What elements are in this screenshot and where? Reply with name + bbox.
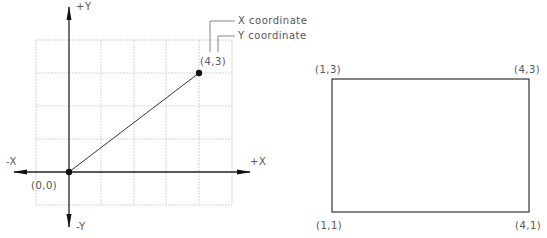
x-coordinate-leader xyxy=(210,21,235,52)
y-coordinate-callout: Y coordinate xyxy=(237,30,307,41)
corner-top-left-label: (1,3) xyxy=(315,64,341,75)
neg-y-label: -Y xyxy=(76,221,86,232)
origin-label: (0,0) xyxy=(31,180,57,191)
x-coordinate-callout: X coordinate xyxy=(238,15,307,26)
corner-bottom-right-label: (4,1) xyxy=(515,220,541,231)
point-4-3 xyxy=(196,70,202,76)
origin-point xyxy=(66,169,72,175)
pos-x-label: +X xyxy=(250,156,266,167)
corner-bottom-left-label: (1,1) xyxy=(316,220,342,231)
corner-top-right-label: (4,3) xyxy=(514,64,540,75)
neg-x-label: -X xyxy=(6,156,17,167)
rectangle xyxy=(332,79,529,212)
point-label: (4,3) xyxy=(200,56,226,67)
y-coordinate-leader xyxy=(218,36,235,52)
coordinate-diagram: +Y -Y +X -X (0,0) (4,3) X coordinate Y c… xyxy=(0,0,547,238)
pos-y-label: +Y xyxy=(76,1,92,12)
